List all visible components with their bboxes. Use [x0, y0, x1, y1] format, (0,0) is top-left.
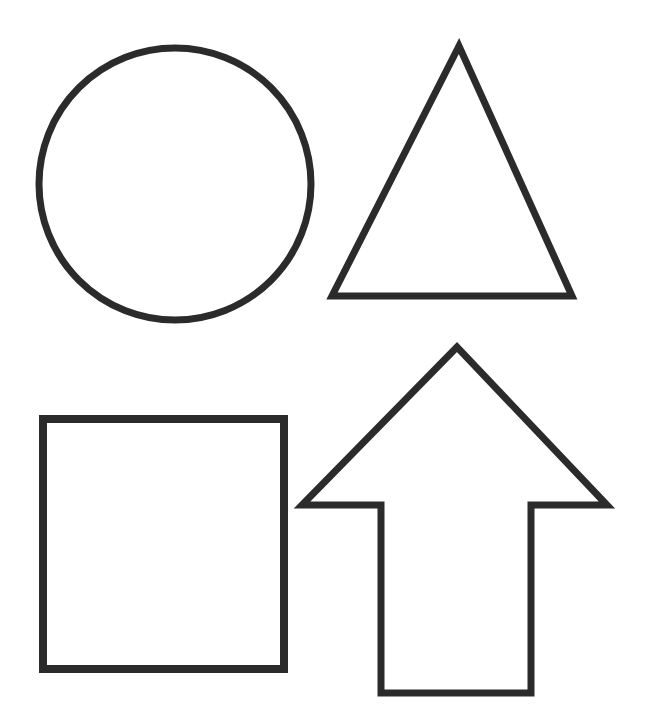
up-arrow-shape	[302, 347, 607, 693]
square-shape	[43, 419, 284, 669]
circle-shape	[39, 48, 311, 320]
shapes-diagram	[0, 0, 652, 723]
triangle-shape	[332, 46, 572, 296]
